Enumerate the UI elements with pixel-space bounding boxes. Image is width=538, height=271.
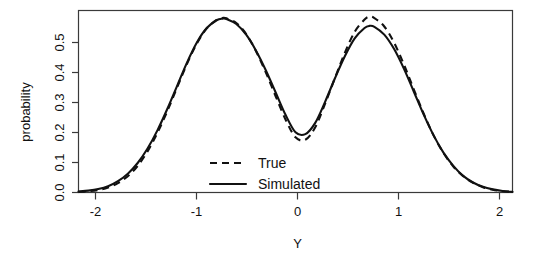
y-axis-title: probability xyxy=(18,82,33,142)
y-tick-label-1: 0.1 xyxy=(52,153,67,171)
y-tick-label-5: 0.5 xyxy=(52,33,67,51)
x-axis-tick-labels: -2 -1 0 1 2 xyxy=(90,204,503,219)
y-axis-ticks xyxy=(72,43,79,193)
x-axis-title: Y xyxy=(293,236,302,251)
x-tick-label-3: 1 xyxy=(395,204,402,219)
x-tick-label-1: -1 xyxy=(191,204,203,219)
density-plot-svg: 0.0 0.1 0.2 0.3 0.4 0.5 probability -2 -… xyxy=(0,0,538,271)
series-line-true xyxy=(79,17,513,192)
series-line-simulated xyxy=(79,18,513,191)
x-tick-label-4: 2 xyxy=(496,204,503,219)
y-tick-label-3: 0.3 xyxy=(52,93,67,111)
x-tick-label-2: 0 xyxy=(294,204,301,219)
chart-container: 0.0 0.1 0.2 0.3 0.4 0.5 probability -2 -… xyxy=(0,0,538,271)
y-tick-label-0: 0.0 xyxy=(52,183,67,201)
y-tick-label-4: 0.4 xyxy=(52,63,67,81)
y-tick-label-2: 0.2 xyxy=(52,123,67,141)
legend: True Simulated xyxy=(210,155,320,192)
x-axis-ticks xyxy=(96,193,500,200)
x-tick-label-0: -2 xyxy=(90,204,102,219)
legend-label-simulated: Simulated xyxy=(258,176,320,192)
legend-label-true: True xyxy=(258,155,286,171)
y-axis-tick-labels: 0.0 0.1 0.2 0.3 0.4 0.5 xyxy=(52,33,67,201)
plot-frame xyxy=(79,11,513,193)
